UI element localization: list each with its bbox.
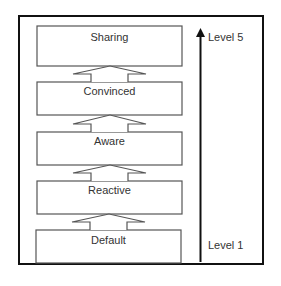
level-top-label: Level 5 xyxy=(208,31,243,43)
up-arrow-icon xyxy=(72,214,145,230)
stage-label-default: Default xyxy=(36,234,181,246)
up-arrow-icon xyxy=(73,66,146,82)
stage-label-convinced: Convinced xyxy=(37,85,182,97)
up-arrow-icon xyxy=(73,165,146,181)
up-arrow-icon xyxy=(73,115,146,132)
level-bottom-label: Level 1 xyxy=(208,239,243,251)
stage-label-sharing: Sharing xyxy=(37,31,182,43)
stage-label-reactive: Reactive xyxy=(37,184,182,196)
stage-label-aware: Aware xyxy=(37,135,182,147)
arrow-up-icon xyxy=(196,28,205,37)
